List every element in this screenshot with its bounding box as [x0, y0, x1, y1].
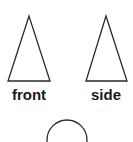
top-view-circle: [47, 120, 87, 142]
side-label: side: [91, 86, 121, 103]
side-view-triangle: [86, 16, 127, 81]
front-view-triangle: [8, 16, 50, 81]
front-label: front: [12, 86, 46, 103]
cone-views-diagram: front side: [0, 0, 133, 142]
